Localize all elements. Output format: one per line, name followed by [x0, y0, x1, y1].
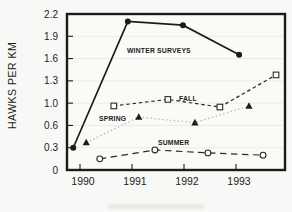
marker-open-circle [260, 152, 266, 158]
y-tick-label: 1.3 [44, 75, 58, 86]
plot-frame [67, 14, 285, 170]
scan-smudge-artifact [108, 204, 204, 209]
marker-open-square [165, 97, 171, 103]
marker-open-circle [205, 150, 211, 156]
chart-canvas: HAWKS PER KM 00.30.61.01.31.61.92.219901… [0, 0, 292, 212]
marker-open-circle [152, 147, 158, 153]
marker-open-circle [97, 156, 103, 162]
series-label-summer: SUMMER [158, 139, 189, 146]
hawks-per-km-line-chart: HAWKS PER KM 00.30.61.01.31.61.92.219901… [0, 0, 292, 212]
x-tick-label: 1992 [175, 175, 199, 187]
y-tick-label: 2.2 [44, 9, 58, 20]
y-axis-title: HAWKS PER KM [6, 42, 18, 129]
series-label-winter-surveys: WINTER SURVEYS [127, 47, 191, 54]
series-label-fall: FALL [179, 95, 197, 102]
y-tick-label: 1.0 [44, 98, 58, 109]
y-tick-label: 1.9 [44, 31, 58, 42]
x-tick-label: 1991 [123, 175, 147, 187]
y-tick-label: 1.6 [44, 53, 58, 64]
marker-filled-circle [125, 18, 131, 24]
marker-filled-circle [180, 22, 186, 28]
y-tick-label: 0.3 [44, 142, 58, 153]
marker-open-square [111, 103, 117, 109]
y-tick-label: 0 [52, 165, 58, 176]
x-tick-label: 1990 [71, 175, 95, 187]
y-tick-label: 0.6 [44, 120, 58, 131]
marker-filled-circle [236, 52, 242, 58]
series-label-spring: SPRING [99, 115, 126, 122]
marker-open-square [273, 72, 279, 78]
marker-filled-circle [70, 145, 76, 151]
x-tick-label: 1993 [227, 175, 251, 187]
marker-open-square [217, 104, 223, 110]
